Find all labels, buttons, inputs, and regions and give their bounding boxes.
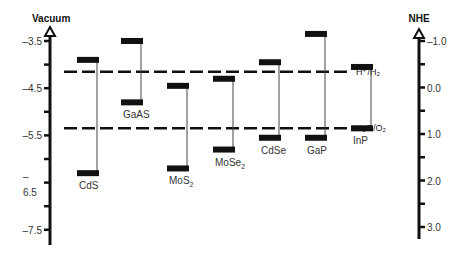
conduction-band-edge [167, 83, 189, 89]
material-label-main: MoS [169, 175, 190, 186]
nhe-axis-arrow-icon [414, 29, 424, 38]
material-label: MoS2 [169, 175, 194, 188]
nhe-axis-title: NHE [408, 13, 429, 24]
material-label: GaP [307, 145, 327, 156]
valence-band-edge [305, 135, 327, 141]
conduction-band-edge [121, 38, 143, 44]
valence-band-edge [167, 165, 189, 171]
material-cds: CdS [77, 57, 99, 191]
nhe-tick-label: –1.0 [427, 36, 447, 47]
material-label: MoSe2 [215, 157, 245, 170]
material-label-main: InP [353, 135, 368, 146]
vacuum-axis: Vacuum–3.5–4.5–5.5–6.5–7.5 [23, 13, 71, 245]
material-label: CdSe [261, 145, 286, 156]
nhe-tick-label: 2.0 [427, 176, 441, 187]
material-label-main: GaP [307, 145, 327, 156]
nhe-tick-label: 3.0 [427, 222, 441, 233]
conduction-band-edge [305, 31, 327, 37]
conduction-band-edge [77, 57, 99, 63]
vacuum-tick-label-dash: – [23, 171, 29, 182]
material-label-subscript: 2 [190, 181, 194, 188]
vacuum-tick-label: 6.5 [23, 187, 37, 198]
vacuum-tick-label: –3.5 [23, 36, 43, 47]
band-diagram-chart: Vacuum–3.5–4.5–5.5–6.5–7.5 NHE–1.00.01.0… [0, 0, 466, 259]
material-gaas: GaAS [121, 38, 150, 120]
material-label-subscript: 2 [241, 163, 245, 170]
material-label-main: CdS [79, 180, 99, 191]
vacuum-tick-label: –5.5 [23, 130, 43, 141]
vacuum-tick-label: –7.5 [23, 225, 43, 236]
valence-band-edge [259, 135, 281, 141]
vacuum-axis-arrow-icon [45, 27, 55, 36]
valence-band-edge [121, 99, 143, 105]
material-label: InP [353, 135, 368, 146]
conduction-band-edge [259, 59, 281, 65]
material-mos2: MoS2 [167, 83, 194, 189]
material-mose2: MoSe2 [213, 76, 245, 170]
valence-band-edge [351, 125, 373, 131]
material-gap: GaP [305, 31, 327, 156]
conduction-band-edge [213, 76, 235, 82]
material-bands: CdSGaASMoS2MoSe2CdSeGaPInP [77, 31, 373, 191]
material-label-main: MoSe [215, 157, 242, 168]
nhe-tick-label: 1.0 [427, 129, 441, 140]
vacuum-axis-title: Vacuum [32, 13, 70, 24]
material-label: CdS [79, 180, 99, 191]
valence-band-edge [77, 170, 99, 176]
valence-band-edge [213, 147, 235, 153]
material-label: GaAS [123, 109, 150, 120]
nhe-tick-label: 0.0 [427, 83, 441, 94]
conduction-band-edge [351, 64, 373, 70]
material-cdse: CdSe [259, 59, 286, 156]
material-label-main: GaAS [123, 109, 150, 120]
nhe-axis: NHE–1.00.01.02.03.0 [408, 13, 446, 239]
vacuum-tick-label: –4.5 [23, 83, 43, 94]
material-label-main: CdSe [261, 145, 286, 156]
